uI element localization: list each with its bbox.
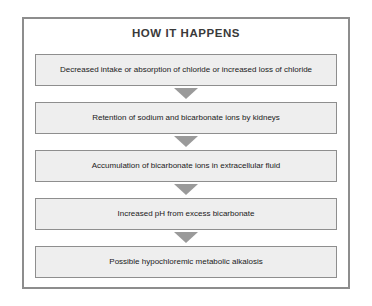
flow-step-label: Increased pH from excess bicarbonate [112,209,261,218]
arrow-down-triangle-icon [174,88,198,99]
flow-step-2: Retention of sodium and bicarbonate ions… [35,102,337,134]
flow-sequence: Decreased intake or absorption of chlori… [35,54,337,278]
flow-step-5: Possible hypochloremic metabolic alkalos… [35,246,337,278]
flow-connector-3 [35,182,337,198]
flow-step-4: Increased pH from excess bicarbonate [35,198,337,230]
diagram-frame: HOW IT HAPPENS Decreased intake or absor… [22,17,350,289]
flow-step-label: Possible hypochloremic metabolic alkalos… [103,257,268,266]
flow-step-label: Accumulation of bicarbonate ions in extr… [86,161,287,170]
flow-step-3: Accumulation of bicarbonate ions in extr… [35,150,337,182]
flow-step-1: Decreased intake or absorption of chlori… [35,54,337,86]
page-title: HOW IT HAPPENS [24,27,348,39]
flowchart-page: HOW IT HAPPENS Decreased intake or absor… [0,0,372,306]
flow-connector-2 [35,134,337,150]
flow-step-label: Retention of sodium and bicarbonate ions… [86,113,286,122]
arrow-down-triangle-icon [174,232,198,243]
arrow-down-triangle-icon [174,136,198,147]
arrow-down-triangle-icon [174,184,198,195]
flow-connector-1 [35,86,337,102]
flow-connector-4 [35,230,337,246]
flow-step-label: Decreased intake or absorption of chlori… [54,65,318,74]
